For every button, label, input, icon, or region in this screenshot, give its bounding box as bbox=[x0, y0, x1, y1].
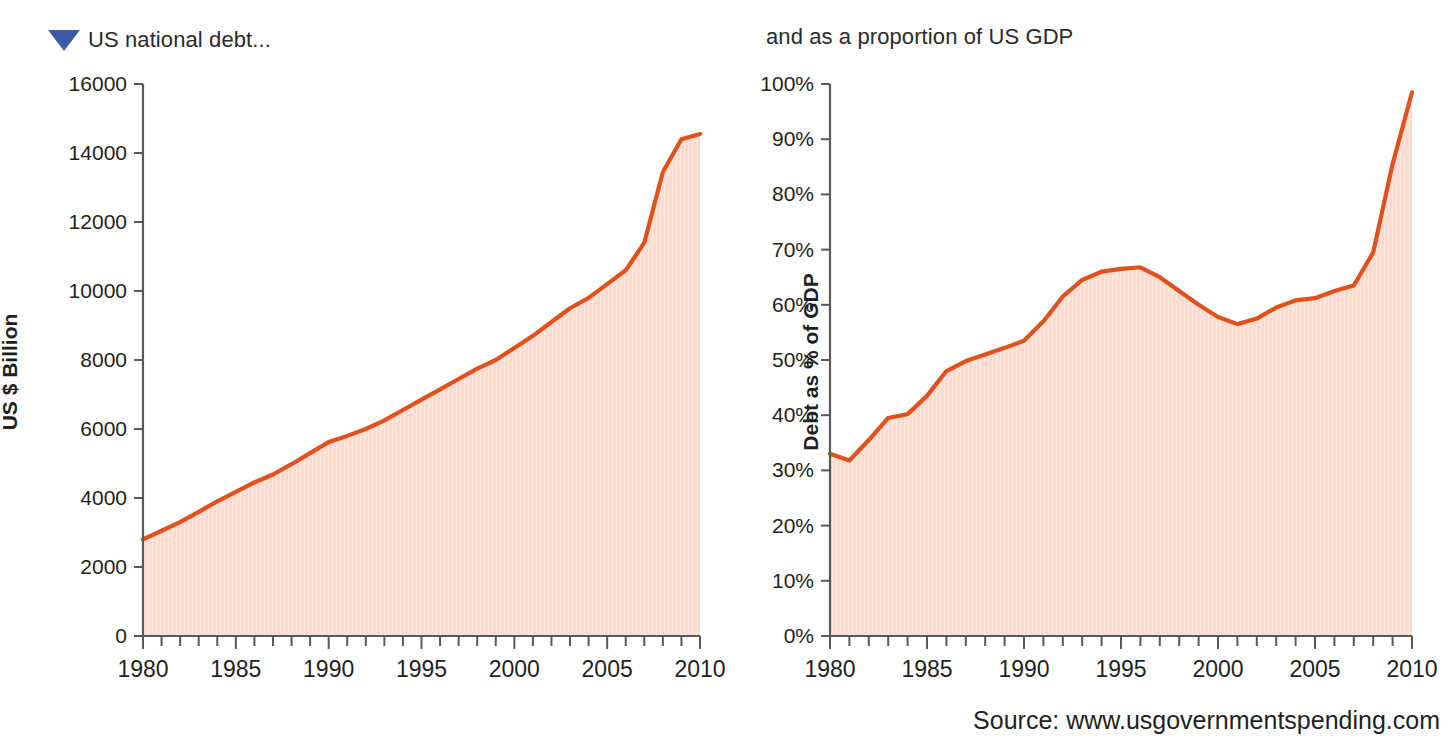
y-tick-label: 80% bbox=[772, 182, 814, 205]
y-tick-label: 0% bbox=[784, 624, 814, 647]
left-chart-plot: 0200040006000800010000120001400016000198… bbox=[0, 60, 720, 680]
right-chart-title: and as a proportion of US GDP bbox=[766, 24, 1073, 50]
y-tick-label: 50% bbox=[772, 348, 814, 371]
y-tick-label: 2000 bbox=[80, 555, 127, 578]
y-tick-label: 16000 bbox=[69, 72, 127, 95]
y-tick-label: 70% bbox=[772, 238, 814, 261]
x-tick-label: 2010 bbox=[1386, 656, 1437, 682]
left-chart-title: US national debt... bbox=[88, 27, 271, 53]
x-tick-label: 2005 bbox=[582, 656, 633, 682]
y-tick-label: 40% bbox=[772, 403, 814, 426]
right-chart-plot: 0%10%20%30%40%50%60%70%80%90%100%1980198… bbox=[700, 60, 1448, 680]
y-tick-label: 90% bbox=[772, 127, 814, 150]
y-tick-label: 0 bbox=[115, 624, 127, 647]
series-area bbox=[143, 134, 700, 636]
y-tick-label: 10% bbox=[772, 569, 814, 592]
x-tick-label: 2000 bbox=[1192, 656, 1243, 682]
y-tick-label: 20% bbox=[772, 514, 814, 537]
x-tick-label: 1985 bbox=[210, 656, 261, 682]
source-note: Source: www.usgovernmentspending.com bbox=[973, 706, 1440, 735]
y-tick-label: 30% bbox=[772, 458, 814, 481]
x-tick-label: 2000 bbox=[489, 656, 540, 682]
x-tick-label: 1980 bbox=[804, 656, 855, 682]
y-tick-label: 14000 bbox=[69, 141, 127, 164]
y-tick-label: 60% bbox=[772, 293, 814, 316]
left-chart: US $ Billion 020004000600080001000012000… bbox=[0, 60, 720, 680]
series-area bbox=[830, 92, 1412, 636]
x-tick-label: 2005 bbox=[1289, 656, 1340, 682]
x-tick-label: 1985 bbox=[901, 656, 952, 682]
y-tick-label: 4000 bbox=[80, 486, 127, 509]
y-tick-label: 8000 bbox=[80, 348, 127, 371]
y-tick-label: 12000 bbox=[69, 210, 127, 233]
triangle-down-icon bbox=[48, 30, 80, 51]
x-tick-label: 1990 bbox=[303, 656, 354, 682]
x-tick-label: 1995 bbox=[396, 656, 447, 682]
y-tick-label: 100% bbox=[760, 72, 814, 95]
x-tick-label: 1990 bbox=[998, 656, 1049, 682]
figure-root: US national debt... and as a proportion … bbox=[0, 0, 1448, 745]
x-tick-label: 1980 bbox=[117, 656, 168, 682]
right-chart: Debt as % of GDP 0%10%20%30%40%50%60%70%… bbox=[700, 60, 1448, 680]
x-tick-label: 1995 bbox=[1095, 656, 1146, 682]
y-tick-label: 10000 bbox=[69, 279, 127, 302]
y-tick-label: 6000 bbox=[80, 417, 127, 440]
